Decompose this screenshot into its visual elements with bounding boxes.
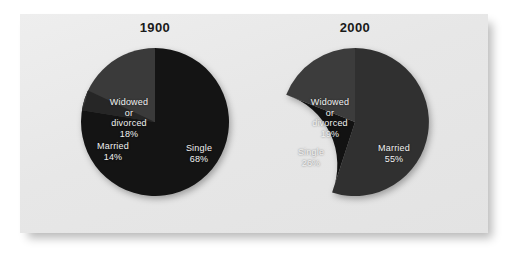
pie-chart-2000: 2000 Widowed or divorced 19% Single 26% … bbox=[255, 14, 455, 233]
charts-row: 1900 Widowed or divorced 18% Married 14%… bbox=[20, 14, 488, 233]
pie-canvas-1900: Widowed or divorced 18% Married 14% Sing… bbox=[80, 47, 230, 197]
figure-root: 1900 Widowed or divorced 18% Married 14%… bbox=[0, 0, 509, 255]
pie-svg-1900 bbox=[80, 47, 230, 197]
chart-card-panel: 1900 Widowed or divorced 18% Married 14%… bbox=[20, 14, 488, 233]
pie-svg-2000 bbox=[280, 47, 430, 197]
pie-chart-1900: 1900 Widowed or divorced 18% Married 14%… bbox=[55, 14, 255, 233]
chart-title-2000: 2000 bbox=[255, 20, 455, 35]
chart-title-1900: 1900 bbox=[55, 20, 255, 35]
pie-canvas-2000: Widowed or divorced 19% Single 26% Marri… bbox=[280, 47, 430, 197]
